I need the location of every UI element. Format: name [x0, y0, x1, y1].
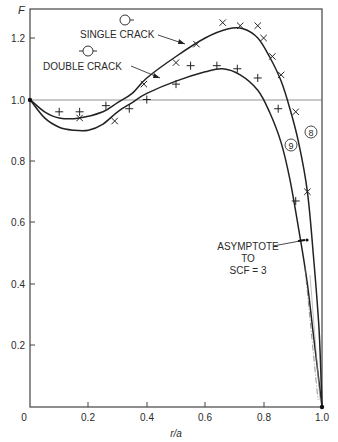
svg-text:ASYMPTOTE: ASYMPTOTE: [217, 241, 279, 252]
y-ticks: [30, 38, 35, 345]
svg-text:TO: TO: [241, 253, 255, 264]
double-crack-hole-icon: [83, 46, 93, 56]
svg-text:1.0: 1.0: [11, 95, 25, 106]
svg-text:0.6: 0.6: [198, 412, 212, 423]
single-crack-hole-icon: [120, 15, 130, 25]
svg-text:0.8: 0.8: [11, 156, 25, 167]
svg-text:0: 0: [21, 412, 27, 423]
svg-text:SCF = 3: SCF = 3: [230, 265, 267, 276]
svg-text:SINGLE CRACK: SINGLE CRACK: [80, 29, 155, 40]
end-point: [320, 405, 324, 409]
svg-text:1.0: 1.0: [315, 412, 329, 423]
svg-text:0.4: 0.4: [140, 412, 154, 423]
svg-text:0.6: 0.6: [11, 217, 25, 228]
svg-text:DOUBLE CRACK: DOUBLE CRACK: [43, 61, 122, 72]
double-crack-curve: [30, 69, 322, 407]
x-axis-label: r/a: [170, 428, 182, 439]
origin-point: [28, 98, 32, 102]
svg-text:0.4: 0.4: [11, 279, 25, 290]
y-tick-labels: 0.2 0.4 0.6 0.8 1.0 1.2: [11, 33, 25, 351]
x-ticks: [88, 402, 264, 407]
asymptote-label: ASYMPTOTE TO SCF = 3: [217, 238, 308, 276]
curve-9-label: 9: [285, 139, 297, 151]
y-axis-label: F: [18, 4, 26, 16]
chart: 0.2 0.4 0.6 0.8 1.0 1.2 0 0.2 0.4 0.6 0.…: [0, 0, 338, 442]
curve-8-label: 8: [305, 126, 317, 138]
double-crack-label: DOUBLE CRACK: [43, 46, 160, 78]
svg-text:9: 9: [288, 141, 293, 151]
svg-text:0.2: 0.2: [81, 412, 95, 423]
double-crack-markers: [55, 62, 300, 205]
svg-text:8: 8: [308, 128, 313, 138]
svg-text:0.2: 0.2: [11, 340, 25, 351]
single-crack-label: SINGLE CRACK: [80, 15, 185, 44]
x-tick-labels: 0 0.2 0.4 0.6 0.8 1.0: [21, 412, 329, 423]
svg-text:1.2: 1.2: [11, 33, 25, 44]
svg-text:0.8: 0.8: [257, 412, 271, 423]
